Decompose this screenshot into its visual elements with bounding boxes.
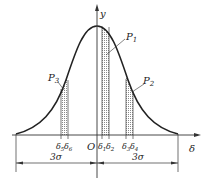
- y-axis-label: y: [99, 8, 106, 19]
- p1-label: P1: [125, 31, 137, 44]
- region-p1: [102, 0, 109, 135]
- region-p2: [126, 0, 133, 135]
- tick-delta4: δ4: [130, 142, 139, 152]
- p3-label: P3: [47, 72, 60, 85]
- x-axis-label: δ: [189, 143, 195, 154]
- y-axis: [95, 4, 99, 178]
- x-axis-arrow-icon: [194, 133, 201, 137]
- tick-delta6: δ6: [64, 142, 73, 152]
- y-axis-arrow-icon: [95, 4, 99, 11]
- p2-label: P2: [142, 75, 155, 88]
- dimension-right-label: 3σ: [132, 152, 145, 162]
- tick-delta2: δ2: [106, 142, 115, 152]
- origin-label: O: [87, 141, 95, 152]
- normal-distribution-diagram: y δ O P1 P2 P3 δ5 δ6 δ1 δ2 δ3 δ4 3σ 3σ: [0, 0, 207, 180]
- dimension-left-label: 3σ: [50, 152, 63, 162]
- region-p3: [61, 0, 68, 135]
